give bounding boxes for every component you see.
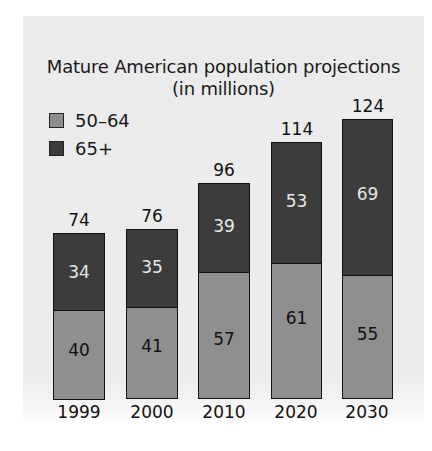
segment-50-64: 61 xyxy=(272,263,321,398)
bar-total: 74 xyxy=(53,210,105,230)
segment-value: 41 xyxy=(127,336,177,356)
legend-item-65-plus: 65+ xyxy=(49,140,113,157)
segment-value: 40 xyxy=(54,340,104,360)
legend-swatch-dark xyxy=(49,141,64,156)
segment-50-64: 55 xyxy=(343,275,392,398)
bar-2030: 69 55 xyxy=(342,119,393,399)
bar-2000: 35 41 xyxy=(126,229,178,399)
x-tick-label: 1999 xyxy=(49,402,109,422)
segment-65-plus: 53 xyxy=(272,143,321,263)
segment-65-plus: 69 xyxy=(343,120,392,275)
x-tick-label: 2010 xyxy=(194,402,254,422)
bar-total: 114 xyxy=(271,119,323,139)
bar-total: 96 xyxy=(198,160,250,180)
segment-value: 55 xyxy=(343,324,392,344)
chart-title: Mature American population projections xyxy=(23,56,424,78)
bar-2010: 39 57 xyxy=(198,183,250,399)
segment-value: 35 xyxy=(127,257,177,277)
segment-50-64: 41 xyxy=(127,307,177,398)
segment-value: 53 xyxy=(272,191,321,211)
legend-swatch-light xyxy=(49,113,64,128)
segment-value: 57 xyxy=(199,329,249,349)
legend-label: 50–64 xyxy=(75,112,130,130)
segment-65-plus: 34 xyxy=(54,234,104,310)
segment-value: 39 xyxy=(199,216,249,236)
segment-value: 69 xyxy=(343,184,392,204)
x-tick-label: 2030 xyxy=(337,402,397,422)
x-tick-label: 2020 xyxy=(266,402,326,422)
segment-65-plus: 35 xyxy=(127,230,177,307)
bar-1999: 34 40 xyxy=(53,233,105,400)
segment-value: 61 xyxy=(272,308,321,328)
legend-item-50-64: 50–64 xyxy=(49,112,130,129)
legend-label: 65+ xyxy=(75,140,113,158)
segment-50-64: 57 xyxy=(199,272,249,398)
bar-total: 124 xyxy=(342,96,394,116)
bar-total: 76 xyxy=(126,206,178,226)
segment-50-64: 40 xyxy=(54,310,104,399)
x-tick-label: 2000 xyxy=(122,402,182,422)
bar-2020: 53 61 xyxy=(271,142,322,399)
segment-65-plus: 39 xyxy=(199,184,249,272)
segment-value: 34 xyxy=(54,262,104,282)
